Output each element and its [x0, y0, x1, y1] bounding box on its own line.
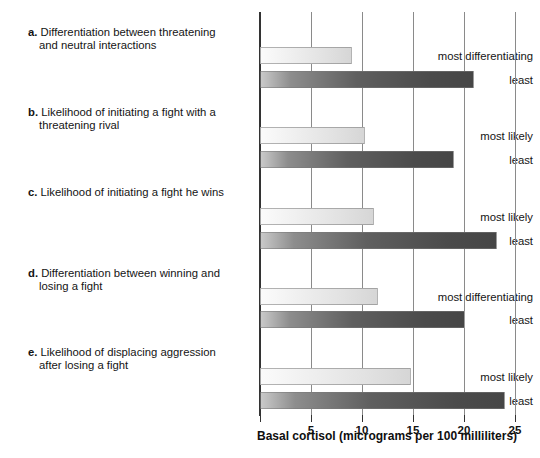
group-letter-a: a.: [28, 26, 37, 38]
bar-a-least: [260, 71, 474, 88]
group-title-line2-b: threatening rival: [28, 119, 256, 132]
group-title-c: c. Likelihood of initiating a fight he w…: [28, 186, 256, 199]
bar-c-least: [260, 232, 497, 249]
bar-d-most: [260, 288, 378, 305]
group-letter-b: b.: [28, 106, 38, 118]
plot-area: 5 10 15 20 25: [260, 12, 515, 415]
tick-20: [464, 415, 465, 422]
x-axis-title: Basal cortisol (micrograms per 100 milli…: [257, 429, 512, 443]
group-letter-d: d.: [28, 267, 38, 279]
bar-d-least: [260, 311, 465, 328]
group-title-line2-e: after losing a fight: [28, 359, 256, 372]
bar-a-most: [260, 47, 352, 64]
group-letter-e: e.: [28, 346, 37, 358]
bar-b-least: [260, 151, 454, 168]
group-title-d: d. Differentiation between winning and l…: [28, 267, 256, 294]
tick-15: [413, 415, 414, 422]
gridline-25: [515, 12, 516, 415]
tick-5: [311, 415, 312, 422]
tick-0: [260, 415, 261, 422]
group-title-line1-c: Likelihood of initiating a fight he wins: [41, 186, 224, 198]
group-title-line1-d: Differentiation between winning and: [41, 267, 220, 279]
bar-chart-figure: a. Differentiation between threatening a…: [0, 0, 540, 458]
bar-e-least: [260, 392, 505, 409]
bar-b-most: [260, 127, 365, 144]
group-letter-c: c.: [28, 186, 37, 198]
tick-10: [362, 415, 363, 422]
group-title-line1-b: Likelihood of initiating a fight with a: [41, 106, 216, 118]
bar-e-most: [260, 368, 411, 385]
group-title-a: a. Differentiation between threatening a…: [28, 26, 256, 53]
group-title-b: b. Likelihood of initiating a fight with…: [28, 106, 256, 133]
group-title-line1-e: Likelihood of displacing aggression: [41, 346, 216, 358]
group-title-line2-d: losing a fight: [28, 280, 256, 293]
group-title-line1-a: Differentiation between threatening: [41, 26, 216, 38]
bar-c-most: [260, 208, 374, 225]
group-title-line2-a: and neutral interactions: [28, 39, 256, 52]
tick-25: [515, 415, 516, 422]
group-title-e: e. Likelihood of displacing aggression a…: [28, 346, 256, 373]
